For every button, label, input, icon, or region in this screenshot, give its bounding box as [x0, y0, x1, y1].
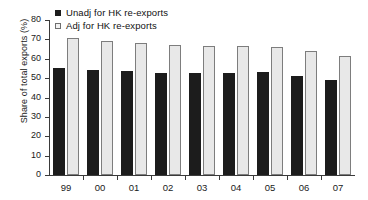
x-tick-label: 07 — [321, 182, 355, 193]
x-tick-mark — [253, 176, 254, 180]
bar-00-unadj — [87, 70, 100, 175]
x-tick-label: 04 — [219, 182, 253, 193]
bar-99-adj — [67, 38, 80, 175]
x-tick-label: 01 — [117, 182, 151, 193]
filled-square-icon — [55, 10, 61, 16]
y-tick-label: 70 — [7, 33, 41, 43]
y-tick-mark — [45, 20, 49, 21]
x-tick-mark — [219, 176, 220, 180]
y-tick-label: 20 — [7, 130, 41, 140]
y-tick-label: 30 — [7, 111, 41, 121]
bar-07-adj — [339, 56, 352, 175]
y-tick-label: 50 — [7, 72, 41, 82]
x-axis-line — [49, 175, 355, 176]
bar-05-unadj — [257, 72, 270, 175]
x-tick-mark — [321, 176, 322, 180]
x-tick-label: 06 — [287, 182, 321, 193]
y-tick-label: 80 — [7, 14, 41, 24]
y-tick-label: 60 — [7, 53, 41, 63]
x-tick-label: 05 — [253, 182, 287, 193]
bar-02-unadj — [155, 73, 168, 175]
y-tick-mark — [45, 78, 49, 79]
legend-label-unadj: Unadj for HK re-exports — [66, 7, 168, 18]
x-tick-label: 00 — [83, 182, 117, 193]
bar-02-adj — [169, 45, 182, 175]
y-tick-mark — [45, 117, 49, 118]
y-tick-mark — [45, 136, 49, 137]
x-tick-mark — [151, 176, 152, 180]
bar-00-adj — [101, 41, 114, 175]
bar-99-unadj — [53, 68, 66, 175]
bar-06-unadj — [291, 76, 304, 175]
x-tick-mark — [185, 176, 186, 180]
bar-01-adj — [135, 43, 148, 175]
y-axis-line — [49, 20, 50, 176]
x-tick-label: 02 — [151, 182, 185, 193]
x-tick-mark — [287, 176, 288, 180]
bar-05-adj — [271, 47, 284, 175]
bar-04-unadj — [223, 73, 236, 175]
y-tick-mark — [45, 39, 49, 40]
plot-area: 01020304050607080 990001020304050607 — [49, 20, 355, 175]
legend-item-unadj: Unadj for HK re-exports — [55, 6, 168, 19]
bar-01-unadj — [121, 71, 134, 175]
bar-04-adj — [237, 46, 250, 175]
y-tick-mark — [45, 175, 49, 176]
bar-06-adj — [305, 51, 318, 175]
bar-03-unadj — [189, 73, 202, 175]
x-tick-label: 03 — [185, 182, 219, 193]
y-tick-mark — [45, 98, 49, 99]
y-tick-label: 10 — [7, 150, 41, 160]
y-tick-label: 0 — [7, 169, 41, 179]
y-tick-mark — [45, 156, 49, 157]
y-tick-label: 40 — [7, 92, 41, 102]
bar-07-unadj — [325, 80, 338, 175]
x-tick-label: 99 — [49, 182, 83, 193]
y-tick-mark — [45, 59, 49, 60]
x-tick-mark — [117, 176, 118, 180]
bar-03-adj — [203, 46, 216, 175]
x-tick-mark — [83, 176, 84, 180]
bar-chart: Share of total exports (%) Unadj for HK … — [0, 0, 368, 200]
